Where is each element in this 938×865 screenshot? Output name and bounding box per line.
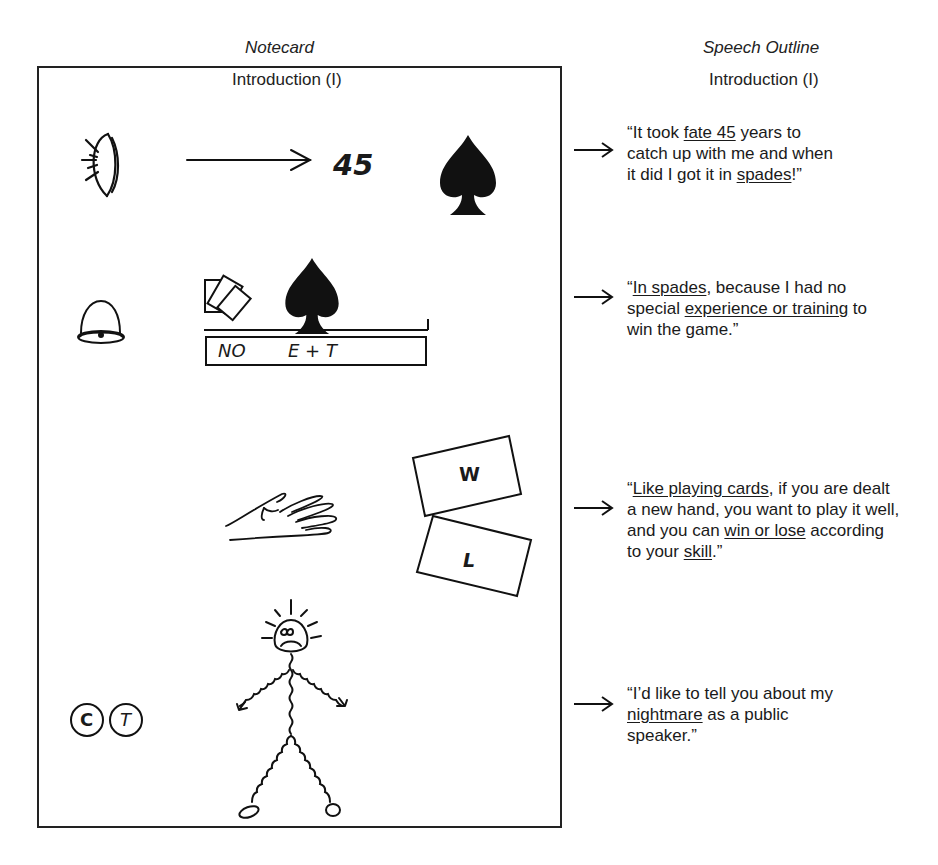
outline-quote-1: “It took fate 45 years to catch up with … (627, 122, 842, 185)
arrow-right-icon (572, 287, 616, 307)
notecard-section-title: Introduction (I) (232, 70, 342, 90)
arrow-right-icon (185, 150, 315, 170)
outline-quote-2: “In spades, because I had no special exp… (627, 277, 897, 340)
hand-icon (222, 490, 342, 540)
e-plus-t-label: E + T (288, 340, 337, 361)
card-l-label: L (463, 549, 475, 571)
card-w-label: W (459, 463, 480, 485)
outline-quote-3: “Like playing cards, if you are dealt a … (627, 478, 902, 562)
circle-c-label: C (80, 709, 93, 730)
arrow-right-icon (572, 498, 616, 518)
circle-t-label: T (120, 709, 131, 730)
arrow-right-icon (572, 694, 616, 714)
eye-icon (60, 130, 120, 210)
stick-figure-icon (225, 600, 365, 820)
no-label: NO (218, 340, 246, 361)
outline-quote-4: “I’d like to tell you about my nightmare… (627, 683, 862, 746)
bell-icon (75, 295, 125, 350)
arrow-right-icon (572, 140, 616, 160)
speech-outline-caption: Speech Outline (703, 38, 819, 58)
win-lose-cards (405, 432, 535, 602)
outline-section-title: Introduction (I) (709, 70, 819, 90)
number-45-label: 45 (333, 148, 373, 182)
spade-icon (438, 133, 498, 217)
table-line (203, 318, 433, 332)
notecard-caption: Notecard (245, 38, 314, 58)
